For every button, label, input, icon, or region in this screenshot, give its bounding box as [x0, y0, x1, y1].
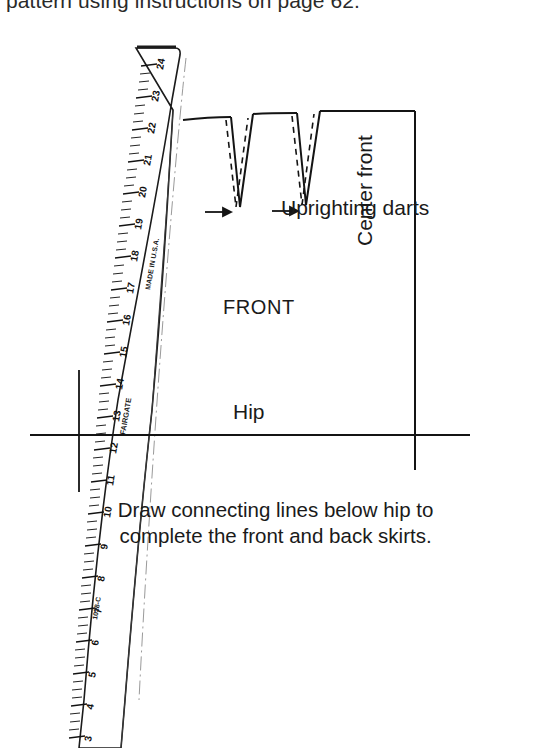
- page-canvas: pattern using instructions on page 62.: [0, 0, 551, 748]
- hip-curve-ruler: 24 23 22 21 20 19 18 17 16 15 14 13 12 1…: [69, 47, 186, 748]
- instruction-line-1: Draw connecting lines below hip to: [0, 497, 551, 523]
- label-center-front: Center front: [353, 135, 377, 246]
- dart-2-dashed: [292, 116, 302, 205]
- waistline-segment-1: [183, 117, 231, 120]
- ruler-num-17: 17: [124, 281, 137, 294]
- ruler-num-20: 20: [136, 185, 149, 198]
- pattern-diagram: 24 23 22 21 20 19 18 17 16 15 14 13 12 1…: [0, 0, 551, 748]
- instruction-caption: Draw connecting lines below hip to compl…: [0, 497, 551, 549]
- waistline-segment-2: [253, 113, 297, 114]
- ruler-num-18: 18: [128, 249, 141, 262]
- ruler-num-21: 21: [141, 153, 154, 166]
- ruler-num-19: 19: [132, 217, 145, 230]
- ruler-num-22: 22: [145, 121, 158, 134]
- label-hip: Hip: [233, 400, 265, 424]
- instruction-line-2: complete the front and back skirts.: [0, 523, 551, 549]
- dart-1-arrow-head: [223, 208, 231, 216]
- ruler-num-23: 23: [149, 89, 162, 102]
- dart-1-dashed: [226, 120, 236, 207]
- label-front: FRONT: [223, 296, 295, 319]
- ruler-num-16: 16: [120, 313, 133, 326]
